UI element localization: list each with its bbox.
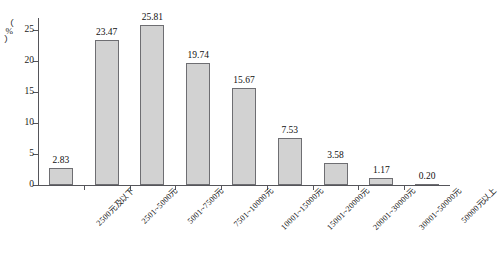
bar [95,40,119,185]
bar [232,88,256,185]
bar-value-label: 15.67 [233,75,254,86]
bar [278,138,302,185]
y-tick-label: 0 [29,178,34,191]
bar-slot: 7.53 [267,18,313,185]
bar-slot: 0.20 [404,18,450,185]
y-axis-title-open-paren: （ [1,20,17,27]
x-axis-label: 10001~15000元 [280,186,327,233]
bar [140,25,164,185]
bar-slot: 15.67 [221,18,267,185]
bar [415,184,439,185]
bar-value-label: 1.17 [373,165,390,176]
bar-slot: 25.81 [130,18,176,185]
y-tick-label: 10 [25,116,35,129]
bar [49,168,73,186]
y-axis-title: （ % ） [1,19,17,43]
x-axis-label: 30001~50000元 [417,186,464,233]
plot-area: 0510152025 2.8323.4725.8119.7415.677.533… [38,18,450,186]
y-tick-label: 15 [25,85,35,98]
bar [369,178,393,185]
x-axis-label: 5001~7500元 [185,186,225,226]
y-tick-label: 25 [25,23,35,36]
x-axis-label: 2500元及以下 [95,186,137,228]
bar-value-label: 23.47 [96,27,117,38]
y-axis-title-close-paren: ） [1,36,17,43]
bar-value-label: 0.20 [419,171,436,182]
bar-slot: 1.17 [358,18,404,185]
y-tick-label: 20 [25,54,35,67]
bar-slot: 23.47 [84,18,130,185]
bar-value-label: 7.53 [281,125,298,136]
y-tick-label: 5 [29,147,34,160]
x-axis-label: 15001~20000元 [325,186,372,233]
bar-value-label: 3.58 [327,150,344,161]
x-axis-label: 50000元以上 [460,186,499,226]
x-axis-label: 20001~30000元 [371,186,418,233]
x-axis-label-group: 2500元及以下2501~5000元5001~7500元7501~10000元1… [38,186,450,256]
x-axis-label: 2501~5000元 [140,186,180,226]
bar-value-label: 19.74 [188,50,209,61]
bar-value-label: 25.81 [142,12,163,23]
x-axis-label: 7501~10000元 [233,186,276,229]
bar [324,163,348,185]
bar-slot: 19.74 [175,18,221,185]
bar [186,63,210,185]
bar-slot: 3.58 [313,18,359,185]
bar-slot: 2.83 [38,18,84,185]
bar-value-label: 2.83 [53,155,70,166]
